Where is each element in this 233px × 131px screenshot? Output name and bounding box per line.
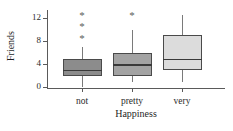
y-tick-label-0: 0 xyxy=(27,82,41,91)
y-tick-label-12: 12 xyxy=(27,13,41,22)
whisker-lower-not xyxy=(82,76,83,88)
x-tick-not xyxy=(82,88,83,92)
outlier-not-3: * xyxy=(78,12,87,18)
whisker-upper-pretty xyxy=(132,30,133,53)
y-tick-label-4-wrap: 4 xyxy=(26,59,41,68)
outlier-pretty-1: * xyxy=(128,12,137,18)
y-tick-label-4: 4 xyxy=(27,59,41,68)
y-tick-label-12-wrap: 12 xyxy=(26,13,41,22)
y-tick-label-8-wrap: 8 xyxy=(26,36,41,45)
boxplot-figure: 12 8 4 0 Friends * * * xyxy=(0,0,233,131)
median-very xyxy=(163,59,202,61)
x-tick-pretty xyxy=(132,88,133,92)
x-tick-very xyxy=(182,88,183,92)
y-tick-label-8: 8 xyxy=(27,36,41,45)
y-tick-8 xyxy=(43,41,47,42)
whisker-upper-not xyxy=(82,47,83,59)
y-axis-line xyxy=(47,10,48,88)
median-not xyxy=(63,70,102,72)
y-tick-4 xyxy=(43,64,47,65)
whisker-lower-very xyxy=(182,70,183,82)
outlier-not-2: * xyxy=(78,23,87,29)
x-axis-title: Happiness xyxy=(47,108,225,120)
y-tick-12 xyxy=(43,18,47,19)
x-tick-label-not: not xyxy=(54,96,110,107)
box-not xyxy=(63,59,102,76)
whisker-lower-pretty xyxy=(132,76,133,82)
whisker-upper-very xyxy=(182,15,183,35)
outlier-not-1: * xyxy=(78,35,87,41)
box-very xyxy=(163,35,202,70)
median-pretty xyxy=(113,64,152,66)
x-tick-label-pretty: pretty xyxy=(104,96,160,107)
x-tick-label-very: very xyxy=(154,96,210,107)
y-axis-title: Friends xyxy=(5,16,17,76)
y-tick-label-0-wrap: 0 xyxy=(26,82,41,91)
plot-area: 12 8 4 0 Friends * * * xyxy=(0,0,233,131)
y-tick-0 xyxy=(43,87,47,88)
